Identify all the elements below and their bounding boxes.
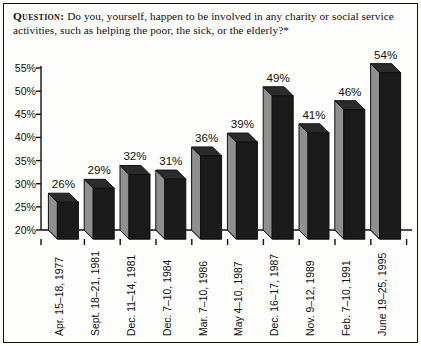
x-axis-category-label: Dec. 11–14, 1981 [126,255,137,336]
bar-value-label: 46% [338,85,361,98]
bar-value-label: 26% [52,177,75,190]
bar-value-label: 49% [267,71,290,84]
bar-value-label: 54% [374,48,397,61]
x-axis-category-label: Feb. 7–10, 1991 [341,260,352,336]
chart-overlay: 26%Apr. 15–18, 197729%Sept. 18–21, 19813… [0,0,421,346]
x-axis-category-label: June 19–25, 1995 [377,253,388,336]
x-axis-category-label: Sept. 18–21, 1981 [90,251,101,336]
bar-value-label: 39% [231,117,254,130]
bar-value-label: 31% [159,154,182,167]
x-axis-category-label: Nov. 9–12, 1989 [305,261,316,336]
bar-value-label: 29% [88,163,111,176]
x-axis-category-label: Mar. 7–10, 1986 [198,261,209,336]
x-axis-category-label: Dec. 7–10, 1984 [162,260,173,336]
bar-value-label: 36% [195,131,218,144]
x-axis-category-label: May 4–10, 1987 [233,261,244,336]
bar-value-label: 41% [302,108,325,121]
chart-figure: Question: Do you, yourself, happen to be… [0,0,421,346]
x-axis-category-label: Apr. 15–18, 1977 [54,257,65,336]
x-axis-category-label: Dec. 16–17, 1987 [269,254,280,336]
bar-value-label: 32% [123,149,146,162]
